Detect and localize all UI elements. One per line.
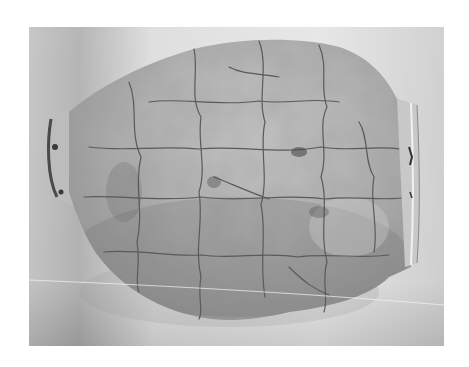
vessel-photograph: Black and white photograph of a cracked,… <box>29 27 444 346</box>
vessel-illustration <box>29 27 444 346</box>
